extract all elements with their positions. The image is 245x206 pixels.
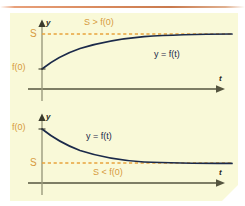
t-axis-arrow-top [216,85,225,93]
curve-decreasing-bottom [42,129,232,163]
figure-root: y t S f(0) S > f(0) y = f(t) [0,0,245,206]
chart-bottom-svg [10,105,238,201]
top-divider-rule [0,6,245,8]
curve-increasing-top [42,34,232,69]
y-axis-arrow-bottom [38,114,45,122]
chart-panel-bottom: y t f(0) S y = f(t) S < f(0) [10,105,238,201]
figure-canvas: y t S f(0) S > f(0) y = f(t) [10,13,238,201]
chart-top-svg [10,13,238,105]
chart-panel-top: y t S f(0) S > f(0) y = f(t) [10,13,238,105]
y-axis-arrow-top [38,20,45,28]
corner-fold-decoration [222,185,238,201]
